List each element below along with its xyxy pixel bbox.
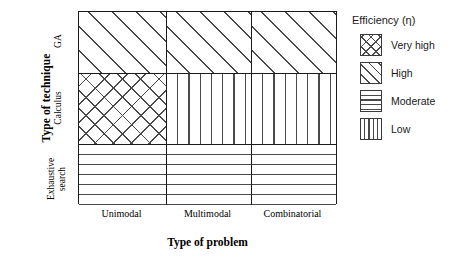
legend-label-very-high: Very high	[391, 39, 435, 51]
y-tick-label-ga: GA	[53, 11, 63, 71]
x-tick-label-unimodal: Unimodal	[78, 208, 165, 219]
legend-item-moderate: Moderate	[352, 89, 452, 113]
x-axis-title: Type of problem	[78, 236, 337, 248]
legend-label-moderate: Moderate	[391, 95, 435, 107]
diagonal-pattern-icon	[360, 62, 382, 84]
horizontal-pattern-icon	[360, 90, 382, 112]
chart-cell-calculus-combinatorial	[251, 74, 336, 144]
crosshatch-pattern-icon	[360, 34, 382, 56]
chart-cell-ga-combinatorial	[251, 12, 336, 73]
x-tick-label-multimodal: Multimodal	[165, 208, 250, 219]
chart-cell-ga-multimodal	[166, 12, 251, 73]
chart-legend: Efficiency (η) Very high High Moderate L…	[352, 14, 452, 145]
vertical-pattern-icon	[360, 118, 382, 140]
chart-row-exhaustive-search	[79, 144, 336, 205]
chart-cell-exhaustive-unimodal	[79, 145, 166, 205]
y-tick-label-exhaustive-line2: search	[57, 134, 68, 224]
x-tick-label-combinatorial: Combinatorial	[248, 208, 337, 219]
legend-label-high: High	[391, 67, 413, 79]
legend-item-high: High	[352, 61, 452, 85]
chart-cell-ga-unimodal	[79, 12, 166, 73]
chart-row-calculus	[79, 73, 336, 144]
chart-plot-area	[78, 11, 337, 204]
legend-title: Efficiency (η)	[352, 14, 452, 26]
legend-item-low: Low	[352, 117, 452, 141]
chart-cell-calculus-unimodal	[79, 74, 166, 144]
y-tick-label-exhaustive-line1: Exhaustive	[46, 158, 56, 200]
chart-cell-exhaustive-multimodal	[166, 145, 251, 205]
chart-row-ga	[79, 12, 336, 73]
legend-label-low: Low	[391, 123, 410, 135]
y-tick-label-exhaustive-search: Exhaustive search	[46, 134, 68, 224]
chart-cell-exhaustive-combinatorial	[251, 145, 336, 205]
legend-item-very-high: Very high	[352, 33, 452, 57]
chart-cell-calculus-multimodal	[166, 74, 251, 144]
